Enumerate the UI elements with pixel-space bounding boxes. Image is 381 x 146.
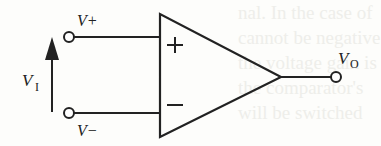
op-amp-diagram: V+ V− V I V O [0,0,381,146]
output-terminal [281,72,341,82]
v-in-subscript: I [35,80,39,94]
v-minus-label: V− [77,122,98,139]
plus-input-sign [167,37,183,53]
input-voltage-arrow-icon [45,37,59,112]
v-plus-label: V+ [77,12,98,29]
v-out-subscript: O [350,57,359,71]
op-amp-triangle [160,14,281,137]
inverting-input-terminal [64,108,160,118]
v-out-label: V O [338,49,359,71]
v-in-main: V [22,71,35,90]
non-inverting-input-terminal [64,32,160,42]
v-in-label: V I [22,71,39,94]
